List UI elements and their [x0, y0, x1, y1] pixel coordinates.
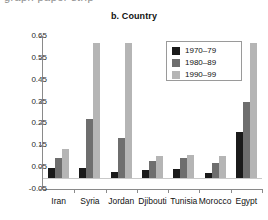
y-axis-tick-mark	[39, 189, 43, 190]
y-axis-tick-mark	[39, 167, 43, 168]
x-axis-tick-mark	[262, 189, 263, 193]
bar-iran-1970-79	[48, 168, 55, 178]
bar-syria-1990-99	[93, 43, 100, 179]
bar-iran-1980-89	[55, 158, 62, 178]
bar-tunisia-1980-89	[180, 158, 187, 178]
legend-item-1990-99: 1990–99	[172, 69, 237, 80]
bar-egypt-1990-99	[250, 43, 257, 179]
bar-syria-1970-79	[79, 168, 86, 178]
y-axis-tick-mark	[39, 145, 43, 146]
bar-djibouti-1970-79	[142, 170, 149, 178]
bar-morocco-1970-79	[205, 173, 212, 178]
y-axis-tick-mark	[39, 123, 43, 124]
y-axis-tick-mark	[39, 80, 43, 81]
legend-swatch-icon-1980-89	[172, 59, 180, 67]
x-axis-tick-mark	[137, 189, 138, 193]
x-axis-tick-mark	[74, 189, 75, 193]
x-axis-tick-mark	[231, 189, 232, 193]
bar-morocco-1980-89	[212, 163, 219, 178]
legend-item-1970-79: 1970–79	[172, 45, 237, 56]
legend-label-1980-89: 1980–89	[185, 58, 216, 67]
plot-area: 0.650.550.450.350.250.150.05-0.05	[0, 0, 268, 220]
figure-panel: graph paper strip b. Country 0.650.550.4…	[0, 0, 268, 220]
x-axis-tick-mark	[106, 189, 107, 193]
zero-baseline	[43, 178, 262, 179]
chart-legend: 1970–79 1980–89 1990–99	[166, 41, 242, 81]
x-axis-tick-mark	[168, 189, 169, 193]
y-axis-tick-mark	[39, 36, 43, 37]
bar-jordan-1980-89	[118, 138, 125, 178]
legend-item-1980-89: 1980–89	[172, 57, 237, 68]
bar-djibouti-1980-89	[149, 161, 156, 178]
bar-egypt-1980-89	[243, 102, 250, 179]
bar-jordan-1990-99	[125, 43, 132, 179]
bar-jordan-1970-79	[111, 172, 118, 179]
legend-swatch-icon-1990-99	[172, 71, 180, 79]
bar-syria-1980-89	[86, 119, 93, 178]
bar-tunisia-1970-79	[173, 169, 180, 178]
x-axis-tick-mark	[199, 189, 200, 193]
legend-swatch-icon-1970-79	[172, 47, 180, 55]
y-axis-tick-mark	[39, 102, 43, 103]
bar-morocco-1990-99	[219, 156, 226, 178]
bar-egypt-1970-79	[236, 132, 243, 178]
bar-tunisia-1990-99	[187, 155, 194, 178]
legend-label-1970-79: 1970–79	[185, 46, 216, 55]
x-axis-label-egypt: Egypt	[216, 196, 268, 206]
y-axis-tick-mark	[39, 58, 43, 59]
legend-label-1990-99: 1990–99	[185, 70, 216, 79]
bar-iran-1990-99	[62, 149, 69, 179]
bar-djibouti-1990-99	[156, 156, 163, 178]
